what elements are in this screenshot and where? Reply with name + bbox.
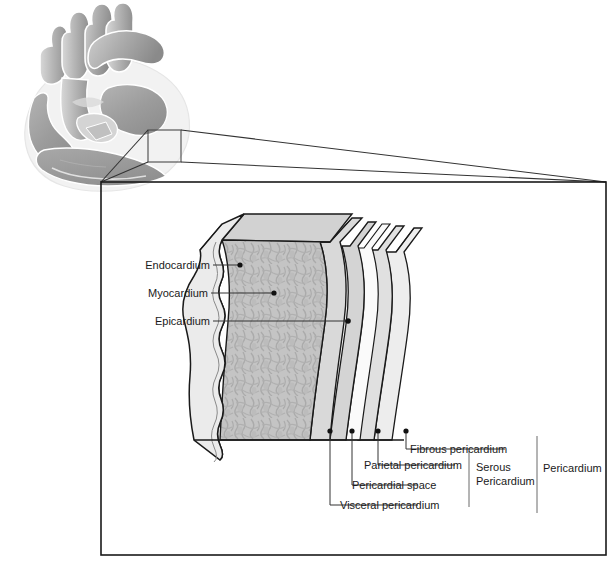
heart-overview-illustration xyxy=(25,3,190,191)
label-pericardial-space: Pericardial space xyxy=(352,479,436,492)
dot-pericardial-space xyxy=(349,428,354,433)
label-myocardium: Myocardium xyxy=(60,287,208,300)
bracket-label-serous-pericardium: Serous Pericardium xyxy=(476,460,535,488)
label-parietal-pericardium: Parietal pericardium xyxy=(364,459,462,472)
figure-root: Endocardium Myocardium Epicardium Fibrou… xyxy=(0,0,610,567)
tissue-layer-stack xyxy=(183,214,422,462)
dot-epicardium xyxy=(345,318,351,324)
serous-line-2: Pericardium xyxy=(476,474,535,488)
label-endocardium: Endocardium xyxy=(60,259,210,272)
dot-fibrous-pericardium xyxy=(403,428,408,433)
dot-visceral-pericardium xyxy=(327,428,332,433)
dot-myocardium xyxy=(271,290,276,295)
label-fibrous-pericardium: Fibrous pericardium xyxy=(410,443,507,456)
label-epicardium: Epicardium xyxy=(60,315,210,328)
dot-endocardium xyxy=(237,262,242,267)
serous-line-1: Serous xyxy=(476,460,535,474)
bracket-label-pericardium: Pericardium xyxy=(543,462,602,475)
label-visceral-pericardium: Visceral pericardium xyxy=(340,499,439,512)
dot-parietal-pericardium xyxy=(375,428,380,433)
